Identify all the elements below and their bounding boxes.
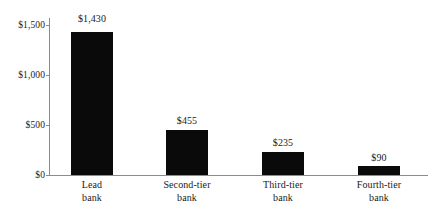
y-tick-mark-1500 [46, 25, 50, 26]
x-axis-label-third-tier-bank: Third-tier bank [233, 178, 333, 204]
bar-second-tier-bank[interactable] [166, 130, 208, 176]
x-axis-label-line-1: Fourth-tier [329, 178, 429, 191]
x-axis-label-line-2: bank [329, 191, 429, 204]
bar-value-fourth-tier-bank: $90 [344, 152, 414, 163]
x-axis-label-line-2: bank [52, 191, 132, 204]
plot-area: $1,500 $1,000 $500 $0 $1,430 Lead bank $… [0, 0, 436, 213]
y-tick-label-0: $0 [0, 170, 45, 180]
y-tick-mark-1000 [46, 75, 50, 76]
x-axis-label-second-tier-bank: Second-tier bank [137, 178, 237, 204]
y-tick-label-1500: $1,500 [0, 20, 45, 30]
x-axis-label-line-2: bank [233, 191, 333, 204]
y-tick-label-1000: $1,000 [0, 70, 45, 80]
y-tick-label-500: $500 [0, 120, 45, 130]
y-tick-mark-0 [46, 175, 50, 176]
bar-value-lead-bank: $1,430 [57, 13, 127, 24]
bar-chart: $1,500 $1,000 $500 $0 $1,430 Lead bank $… [0, 0, 436, 213]
x-axis-label-line-1: Second-tier [137, 178, 237, 191]
x-axis-line [49, 175, 428, 176]
bar-value-third-tier-bank: $235 [248, 137, 318, 148]
x-axis-label-lead-bank: Lead bank [52, 178, 132, 204]
y-axis-line [49, 18, 50, 176]
x-axis-label-line-1: Lead [52, 178, 132, 191]
x-axis-label-line-2: bank [137, 191, 237, 204]
y-tick-mark-500 [46, 125, 50, 126]
bar-third-tier-bank[interactable] [262, 152, 304, 176]
x-axis-label-line-1: Third-tier [233, 178, 333, 191]
x-axis-label-fourth-tier-bank: Fourth-tier bank [329, 178, 429, 204]
bar-lead-bank[interactable] [71, 32, 113, 175]
bar-value-second-tier-bank: $455 [152, 115, 222, 126]
bar-fourth-tier-bank[interactable] [358, 166, 400, 175]
